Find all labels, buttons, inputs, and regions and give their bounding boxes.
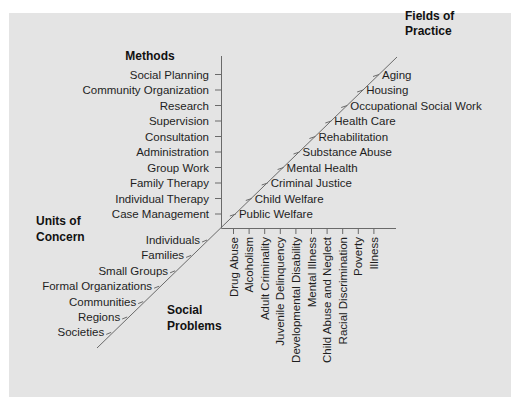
fields-item: Aging bbox=[382, 69, 411, 81]
social-problems-heading-line1: Social bbox=[167, 303, 202, 317]
units-heading-line2: Concern bbox=[36, 230, 85, 244]
methods-item: Case Management bbox=[112, 208, 210, 220]
problems-item: Poverty bbox=[352, 237, 364, 276]
fields-heading-line2: Practice bbox=[405, 24, 452, 38]
fields-item: Health Care bbox=[334, 115, 395, 127]
methods-item: Consultation bbox=[145, 131, 209, 143]
methods-list: Social PlanningCommunity OrganizationRes… bbox=[82, 69, 221, 221]
fields-item: Substance Abuse bbox=[303, 146, 393, 158]
fields-item: Rehabilitation bbox=[318, 131, 388, 143]
fields-item: Mental Health bbox=[287, 162, 358, 174]
units-item: Regions bbox=[78, 311, 120, 323]
methods-item: Individual Therapy bbox=[115, 193, 209, 205]
fields-item: Housing bbox=[366, 84, 408, 96]
problems-item: Developmental Disability bbox=[290, 237, 302, 363]
methods-item: Supervision bbox=[149, 115, 209, 127]
fields-item: Occupational Social Work bbox=[350, 100, 482, 112]
units-item: Small Groups bbox=[98, 265, 168, 277]
social-work-dimensions-diagram: Methods Fields of Practice Units of Conc… bbox=[0, 0, 528, 405]
units-item: Communities bbox=[69, 296, 136, 308]
units-item: Formal Organizations bbox=[42, 280, 152, 292]
problems-item: Alcoholism bbox=[243, 237, 255, 293]
units-tick bbox=[106, 332, 111, 334]
methods-item: Family Therapy bbox=[130, 177, 209, 189]
units-tick bbox=[122, 317, 127, 319]
units-item: Families bbox=[141, 249, 184, 261]
problems-item: Illness bbox=[368, 237, 380, 270]
fields-heading-line1: Fields of bbox=[405, 9, 455, 23]
problems-item: Adult Criminality bbox=[259, 237, 271, 320]
social-problems-list: Drug AbuseAlcoholismAdult CriminalityJuv… bbox=[228, 229, 380, 363]
methods-item: Research bbox=[160, 100, 209, 112]
methods-item: Group Work bbox=[147, 162, 209, 174]
problems-item: Drug Abuse bbox=[228, 237, 240, 297]
methods-item: Social Planning bbox=[130, 69, 209, 81]
problems-item: Racial Discrimination bbox=[337, 237, 349, 344]
fields-item: Criminal Justice bbox=[271, 177, 352, 189]
social-problems-heading-line2: Problems bbox=[167, 319, 222, 333]
fields-item: Public Welfare bbox=[239, 208, 313, 220]
problems-item: Mental Illness bbox=[306, 237, 318, 308]
units-heading-line1: Units of bbox=[36, 214, 82, 228]
problems-item: Juvenile Delinquency bbox=[274, 237, 286, 346]
units-item: Societies bbox=[58, 326, 105, 338]
methods-heading: Methods bbox=[125, 49, 175, 63]
problems-item: Child Abuse and Neglect bbox=[321, 236, 333, 363]
methods-item: Administration bbox=[136, 146, 209, 158]
fields-of-practice-list: AgingHousingOccupational Social WorkHeal… bbox=[230, 69, 482, 221]
units-item: Individuals bbox=[146, 234, 201, 246]
methods-item: Community Organization bbox=[82, 84, 209, 96]
fields-item: Child Welfare bbox=[255, 193, 324, 205]
